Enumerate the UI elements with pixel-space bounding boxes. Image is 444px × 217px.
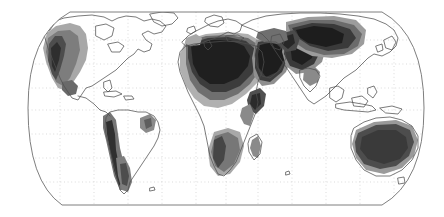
- coast-new-zealand: [424, 156, 434, 172]
- map-canvas: [0, 0, 444, 217]
- world-aridity-map: [0, 0, 444, 217]
- map-interior: [0, 0, 444, 217]
